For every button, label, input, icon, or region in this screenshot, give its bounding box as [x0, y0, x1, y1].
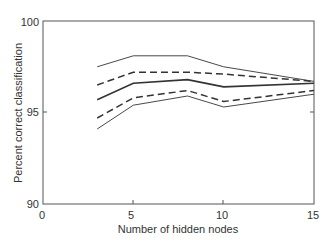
line-chart: 100 95 90 0 5 10 15 Number of hidden nod…	[0, 0, 331, 242]
series-line-3	[97, 91, 314, 119]
plot-frame	[43, 21, 314, 204]
series-lines	[97, 56, 314, 129]
x-axis-label: Number of hidden nodes	[118, 223, 239, 235]
series-line-0	[97, 56, 314, 82]
xtick-0: 0	[39, 209, 45, 221]
ytick-90: 90	[27, 198, 39, 210]
xtick-10: 10	[216, 209, 228, 221]
xtick-15: 15	[307, 209, 319, 221]
xtick-5: 5	[128, 209, 134, 221]
y-axis-label: Percent correct classification	[12, 43, 24, 183]
ytick-95: 95	[27, 106, 39, 118]
axis-ticks	[43, 112, 314, 204]
ytick-100: 100	[21, 16, 39, 28]
